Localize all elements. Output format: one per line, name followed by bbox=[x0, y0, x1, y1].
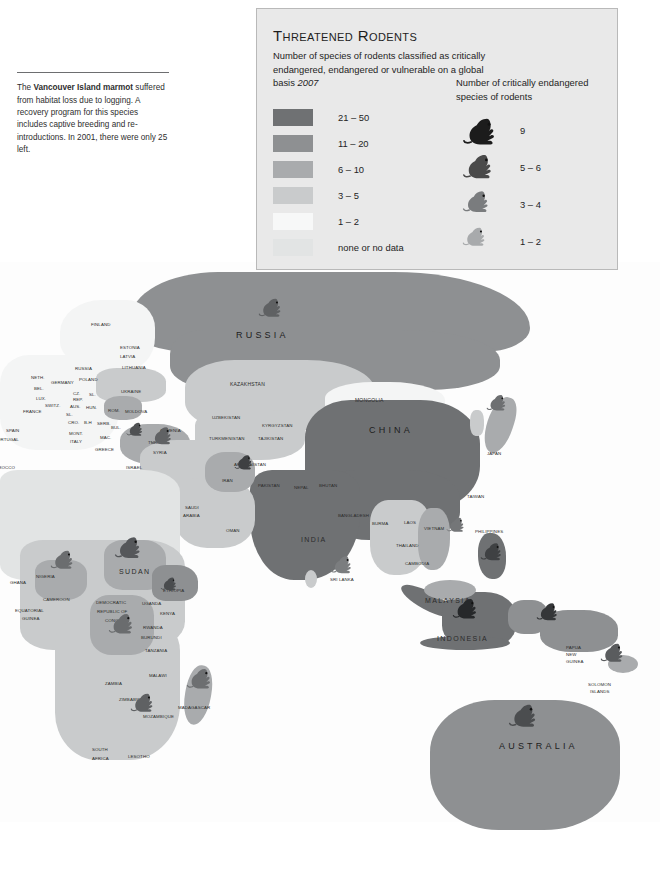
map-mouse-icon bbox=[234, 452, 256, 473]
country-label: REP. bbox=[73, 397, 83, 402]
country-label: GHANA bbox=[10, 580, 26, 585]
country-label: GERMANY bbox=[51, 380, 74, 385]
mouse-icon bbox=[462, 224, 498, 258]
country-label: KAZAKHSTAN bbox=[230, 381, 265, 387]
caption-text-before: The bbox=[17, 83, 33, 92]
country-label: ZAMBIA bbox=[105, 681, 122, 686]
legend-mouse-label: 5 – 6 bbox=[520, 162, 541, 173]
country-label: OMAN bbox=[226, 528, 240, 533]
map-mouse-icon bbox=[508, 700, 542, 732]
legend-swatch-row: 6 – 10 bbox=[273, 161, 364, 178]
legend-year: 2007 bbox=[298, 77, 319, 88]
map-mouse-icon bbox=[186, 665, 216, 693]
country-label: FRANCE bbox=[23, 409, 42, 414]
country-label: CRO. bbox=[68, 420, 79, 425]
country-label: B-H bbox=[84, 420, 92, 425]
country-label: AUSTRALIA bbox=[499, 741, 578, 751]
legend-swatch-color bbox=[273, 135, 313, 152]
legend-swatch-label: 3 – 5 bbox=[338, 190, 359, 201]
legend-mouse-row: 9 bbox=[462, 113, 525, 147]
legend-mouse-row: 5 – 6 bbox=[462, 150, 541, 184]
country-label: ISLANDS bbox=[590, 689, 610, 694]
country-label: KENYA bbox=[160, 611, 175, 616]
country-label: UGANDA bbox=[142, 601, 161, 606]
country-label: KYRGYZSTAN bbox=[262, 423, 292, 428]
country-label: PAPUA bbox=[566, 645, 581, 650]
country-label: CAMBODIA bbox=[405, 561, 429, 566]
legend-swatch-row: 3 – 5 bbox=[273, 187, 359, 204]
country-label: NEPAL bbox=[294, 485, 309, 490]
marmot-caption: The Vancouver Island marmot suffered fro… bbox=[17, 72, 169, 156]
country-label: LESOTHO bbox=[128, 754, 150, 759]
map-mouse-icon bbox=[126, 420, 146, 439]
country-label: RWANDA bbox=[143, 625, 163, 630]
legend-mice-title: Number of critically endangered species … bbox=[456, 76, 621, 103]
map-mouse-icon bbox=[486, 392, 510, 414]
country-label: CZ. bbox=[73, 391, 80, 396]
country-label: ITALY bbox=[70, 439, 82, 444]
legend-swatch-label: 6 – 10 bbox=[338, 164, 364, 175]
map-mouse-icon bbox=[480, 540, 506, 564]
country-label: SPAIN bbox=[6, 428, 19, 433]
caption-bold-species: Vancouver Island marmot bbox=[33, 83, 133, 92]
map-mouse-icon bbox=[258, 295, 286, 321]
country-label: BURMA bbox=[372, 521, 388, 526]
map-mouse-icon bbox=[536, 600, 562, 624]
country-label: SOLOMON bbox=[588, 682, 611, 687]
country-label: EQUATORIAL bbox=[15, 608, 44, 613]
country-label: LITHUANIA bbox=[122, 365, 146, 370]
country-label: MONT. bbox=[69, 431, 83, 436]
map-mouse-icon bbox=[452, 595, 482, 623]
mouse-icon bbox=[462, 113, 498, 147]
caption-text: The Vancouver Island marmot suffered fro… bbox=[17, 82, 169, 156]
country-label: LAOS bbox=[404, 520, 416, 525]
map-mouse-icon bbox=[446, 515, 468, 535]
country-label: MADAGASCAR bbox=[178, 705, 210, 710]
country-label: ROM. bbox=[108, 408, 120, 413]
country-label: DEMOCRATIC bbox=[96, 600, 126, 605]
map-mouse-icon bbox=[600, 640, 628, 666]
country-label: VIETNAM bbox=[424, 526, 444, 531]
country-label: BURUNDI bbox=[141, 635, 162, 640]
legend-mouse-row: 1 – 2 bbox=[462, 224, 541, 258]
map-mouse-icon bbox=[150, 424, 176, 448]
country-label: NETH. bbox=[31, 375, 45, 380]
country-label: POLAND bbox=[79, 377, 98, 382]
mouse-icon bbox=[462, 187, 498, 221]
legend-swatch-color bbox=[273, 161, 313, 178]
country-label: SYRIA bbox=[153, 450, 167, 455]
country-label: RUSSIA bbox=[236, 330, 289, 340]
country-label: CHINA bbox=[369, 425, 413, 435]
country-label: NIGERIA bbox=[36, 574, 55, 579]
country-label: FINLAND bbox=[91, 322, 111, 327]
country-label: SL. bbox=[89, 392, 96, 397]
legend-swatch-row: none or no data bbox=[273, 239, 404, 256]
country-label: SUDAN bbox=[119, 568, 151, 575]
country-label: SAUDI bbox=[185, 505, 199, 510]
legend-panel: Threatened Rodents Number of species of … bbox=[256, 8, 618, 270]
legend-swatch-label: none or no data bbox=[338, 242, 404, 253]
country-label: MOROCCO bbox=[0, 465, 15, 470]
legend-swatch-color bbox=[273, 109, 313, 126]
country-label: SRI LANKA bbox=[330, 577, 354, 582]
legend-swatch-row: 11 – 20 bbox=[273, 135, 369, 152]
mouse-icon bbox=[462, 150, 498, 184]
legend-swatch-label: 11 – 20 bbox=[338, 138, 369, 149]
country-label: PORTUGAL bbox=[0, 437, 19, 442]
map-mouse-icon bbox=[108, 610, 138, 638]
country-label: PAKISTAN bbox=[258, 483, 280, 488]
country-label: CAMEROON bbox=[43, 597, 70, 602]
country-label: BUL. bbox=[111, 425, 121, 430]
map-mouse-icon bbox=[160, 575, 180, 593]
country-label: ISRAEL bbox=[126, 465, 142, 470]
legend-swatch-color bbox=[273, 239, 313, 256]
country-label: BHUTAN bbox=[319, 483, 337, 488]
country-label: LUX. bbox=[36, 396, 46, 401]
country-label: MAC. bbox=[100, 435, 111, 440]
country-label: IRAN bbox=[222, 478, 233, 483]
legend-swatch-color bbox=[273, 213, 313, 230]
country-label: UKRAINE bbox=[121, 389, 141, 394]
country-label: TAIWAN bbox=[467, 494, 484, 499]
country-label: SL. bbox=[66, 412, 73, 417]
country-label: TANZANIA bbox=[145, 648, 167, 653]
